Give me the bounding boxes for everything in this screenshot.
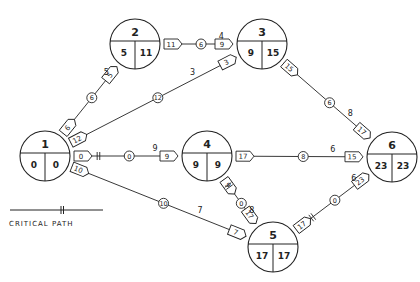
tag-value: 17 <box>239 153 248 161</box>
edge-1-4: 0909 <box>74 144 178 161</box>
node-3: 3915 <box>237 19 287 69</box>
node-id: 3 <box>258 26 266 39</box>
earliest-start: 17 <box>256 251 269 261</box>
edge-4-5: 91708 <box>220 177 260 227</box>
tag-value: 0 <box>79 153 83 161</box>
latest-start: 15 <box>267 48 280 58</box>
float-value: 6 <box>328 99 332 107</box>
tag-value: 9 <box>165 153 169 161</box>
float-value: 6 <box>90 94 94 102</box>
latest-start: 11 <box>140 48 153 58</box>
latest-start: 23 <box>397 161 410 171</box>
earliest-start: 5 <box>121 48 127 58</box>
earliest-start: 23 <box>375 161 388 171</box>
node-id: 6 <box>388 139 396 152</box>
start-tag: 0 <box>74 151 92 161</box>
earliest-start: 9 <box>248 48 254 58</box>
end-tag: 9 <box>160 151 178 161</box>
earliest-start: 0 <box>31 160 37 170</box>
edge-3-6: 151768 <box>281 59 374 141</box>
float-value: 0 <box>127 153 131 161</box>
end-tag: 7 <box>227 225 247 241</box>
duration-label: 8 <box>348 109 353 118</box>
duration-label: 7 <box>197 206 202 215</box>
start-tag: 15 <box>281 59 301 78</box>
float-value: 0 <box>239 200 243 208</box>
edge-1-2: 6565 <box>59 63 120 136</box>
edge-2-3: 11964 <box>164 32 233 49</box>
start-tag: 10 <box>70 162 90 178</box>
latest-start: 17 <box>278 251 291 261</box>
node-4: 499 <box>182 131 232 181</box>
network-diagram: 6565123123090910710711964151768171586917… <box>0 0 420 282</box>
float-value: 6 <box>199 41 203 49</box>
tag-value: 9 <box>220 41 224 49</box>
node-1: 100 <box>20 131 70 181</box>
latest-start: 0 <box>53 160 59 170</box>
node-2: 2511 <box>110 19 160 69</box>
edge-5-6: 172306 <box>293 171 372 234</box>
latest-start: 9 <box>215 160 221 170</box>
start-tag: 6 <box>59 116 78 136</box>
float-value: 12 <box>154 94 162 102</box>
tag-value: 11 <box>167 41 176 49</box>
node-id: 1 <box>41 138 49 151</box>
end-tag: 3 <box>218 53 239 70</box>
float-value: 0 <box>333 197 337 205</box>
duration-label: 6 <box>330 145 335 154</box>
start-tag: 12 <box>68 130 89 147</box>
duration-label: 3 <box>190 68 195 77</box>
node-5: 51717 <box>248 222 298 272</box>
node-id: 5 <box>269 229 277 242</box>
duration-label: 5 <box>104 68 109 77</box>
float-value: 8 <box>301 153 305 161</box>
earliest-start: 9 <box>193 160 199 170</box>
nodes-layer: 100251139154995171762323 <box>20 19 417 272</box>
start-tag: 17 <box>236 151 254 161</box>
end-tag: 17 <box>353 122 373 141</box>
duration-label: 6 <box>351 174 356 183</box>
start-tag: 11 <box>164 39 182 49</box>
duration-label: 4 <box>219 32 224 41</box>
end-tag: 15 <box>345 152 363 162</box>
node-id: 2 <box>131 26 139 39</box>
legend-label: CRITICAL PATH <box>9 220 74 228</box>
float-value: 10 <box>159 200 167 208</box>
end-tag: 9 <box>215 39 233 49</box>
tag-value: 15 <box>348 153 357 161</box>
duration-label: 8 <box>249 206 254 215</box>
legend <box>10 206 103 214</box>
duration-label: 9 <box>153 144 158 153</box>
node-6: 62323 <box>367 132 417 182</box>
node-id: 4 <box>203 138 211 151</box>
edge-4-6: 171586 <box>236 145 363 162</box>
